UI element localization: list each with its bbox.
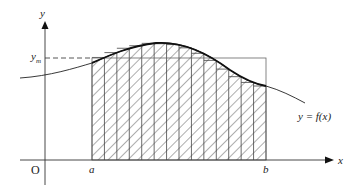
y-axis-arrow-icon [42,21,49,29]
x-axis-arrow-icon [325,157,334,164]
origin-label: O [31,164,40,176]
b-label: b [263,164,269,175]
ym-subscript: m [36,57,41,65]
curve-label: y = f(x) [298,111,331,122]
y-axis-label: y [40,8,45,19]
x-axis-label: x [338,155,343,166]
ym-label: ym [31,51,41,65]
a-label: a [89,164,95,175]
diagram-canvas [0,0,358,196]
